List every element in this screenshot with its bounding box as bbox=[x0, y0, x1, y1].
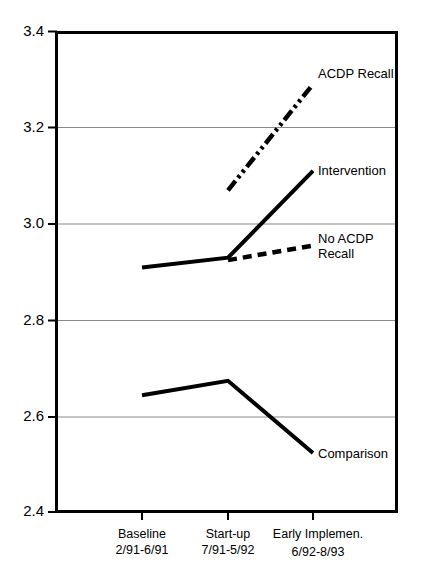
y-tick-label-2-8: 2.8 bbox=[23, 311, 44, 328]
x-tick-label-startup-dates: 7/91-5/92 bbox=[202, 543, 255, 557]
x-tick-labels: Baseline 2/91-6/91 Start-up 7/91-5/92 Ea… bbox=[116, 527, 364, 559]
series-line-intervention bbox=[142, 171, 313, 268]
y-tick-label-2-6: 2.6 bbox=[23, 407, 44, 424]
chart-canvas: 3.4 3.2 3.0 2.8 2.6 2.4 bbox=[0, 0, 422, 583]
series-line-acdp-recall bbox=[228, 84, 313, 190]
y-tick-label-2-5: 2.4 bbox=[23, 502, 44, 519]
series-label-acdp-recall: ACDP Recall bbox=[318, 66, 394, 81]
x-tick-label-startup-title: Start-up bbox=[206, 527, 251, 541]
series-label-comparison: Comparison bbox=[318, 446, 388, 461]
series-label-no-acdp-recall-line1: No ACDP bbox=[318, 231, 374, 246]
series-no-acdp-recall bbox=[228, 246, 313, 260]
axis-frame bbox=[55, 31, 398, 513]
y-tick-label-3-0: 3.0 bbox=[23, 214, 44, 231]
series-intervention bbox=[142, 171, 313, 268]
series-label-no-acdp-recall-line2: Recall bbox=[318, 246, 354, 261]
y-tick-label-3-4: 3.4 bbox=[23, 22, 44, 39]
y-tick-label-3-2: 3.2 bbox=[23, 118, 44, 135]
series-acdp-recall bbox=[228, 84, 313, 190]
series-label-intervention: Intervention bbox=[318, 163, 386, 178]
line-chart: 3.4 3.2 3.0 2.8 2.6 2.4 bbox=[0, 0, 422, 583]
x-tick-label-early-implementation-dates: 6/92-8/93 bbox=[292, 545, 345, 559]
x-tick-label-early-implementation-title: Early Implemen. bbox=[273, 527, 363, 541]
x-tick-label-baseline-title: Baseline bbox=[118, 527, 166, 541]
y-tick-labels: 3.4 3.2 3.0 2.8 2.6 2.4 bbox=[23, 22, 44, 520]
series-line-no-acdp-recall bbox=[228, 246, 313, 260]
x-tick-label-baseline-dates: 2/91-6/91 bbox=[116, 543, 169, 557]
